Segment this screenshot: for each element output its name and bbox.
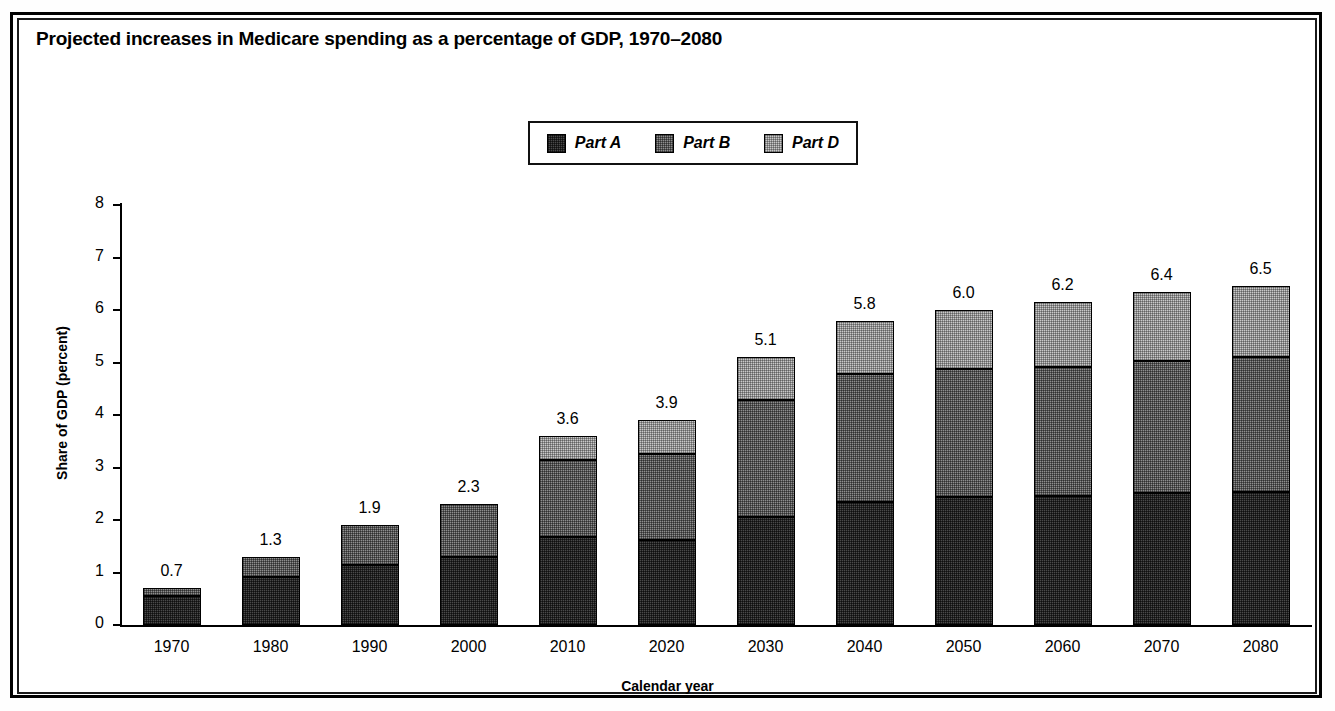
chart-legend: Part A Part B Part D	[528, 121, 858, 165]
part-b-swatch-icon	[655, 134, 674, 153]
part-a-swatch-icon	[547, 134, 566, 153]
legend-label-part-b: Part B	[683, 134, 730, 152]
part-d-swatch-icon	[764, 134, 783, 153]
legend-item-part-d[interactable]: Part D	[764, 134, 839, 153]
legend-label-part-a: Part A	[575, 134, 622, 152]
legend-item-part-a[interactable]: Part A	[547, 134, 622, 153]
chart-title: Projected increases in Medicare spending…	[36, 28, 1276, 50]
figure-inner-border	[17, 18, 1317, 694]
legend-label-part-d: Part D	[792, 134, 839, 152]
legend-item-part-b[interactable]: Part B	[655, 134, 730, 153]
figure-panel: Projected increases in Medicare spending…	[0, 0, 1335, 711]
